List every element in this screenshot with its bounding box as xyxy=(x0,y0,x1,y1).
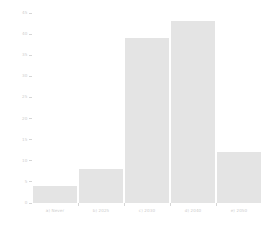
x-axis-tick-label: a) Never xyxy=(46,209,64,213)
x-axis: a) Neverb) 2025c) 2030d) 2040e) 2050 xyxy=(32,203,262,226)
y-axis-tick-label: 0 xyxy=(25,201,28,205)
x-axis-tick-mark xyxy=(78,203,79,206)
x-axis-tick-mark xyxy=(216,203,217,206)
y-axis-tick-label: 45 xyxy=(22,11,27,15)
bar xyxy=(171,21,215,203)
y-axis-tick-label: 10 xyxy=(22,159,27,163)
x-axis-tick-mark xyxy=(170,203,171,206)
bar xyxy=(217,152,261,203)
bars-layer xyxy=(32,0,262,226)
y-axis-tick-label: 35 xyxy=(22,53,27,57)
x-axis-tick-mark xyxy=(124,203,125,206)
y-axis-tick-label: 20 xyxy=(22,116,27,120)
x-axis-tick-label: e) 2050 xyxy=(231,209,248,213)
y-axis-tick-label: 5 xyxy=(25,180,28,184)
y-axis: 051015202530354045 xyxy=(0,0,32,226)
bar xyxy=(33,186,77,203)
bar xyxy=(125,38,169,203)
bar-chart: 051015202530354045 a) Neverb) 2025c) 203… xyxy=(0,0,266,226)
y-axis-tick-label: 30 xyxy=(22,74,27,78)
x-axis-tick-label: d) 2040 xyxy=(185,209,202,213)
y-axis-tick-label: 25 xyxy=(22,95,27,99)
y-axis-tick-label: 15 xyxy=(22,137,27,141)
x-axis-tick-label: c) 2030 xyxy=(139,209,155,213)
plot-area: a) Neverb) 2025c) 2030d) 2040e) 2050 xyxy=(32,0,262,226)
x-axis-tick-label: b) 2025 xyxy=(93,209,110,213)
bar xyxy=(79,169,123,203)
y-axis-tick-label: 40 xyxy=(22,32,27,36)
